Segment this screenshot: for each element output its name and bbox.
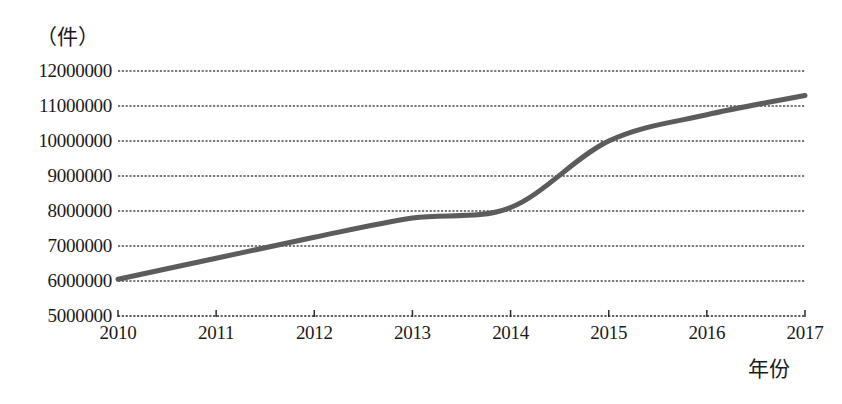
data-series-line — [118, 96, 805, 280]
x-axis-tick-label: 2016 — [688, 322, 725, 344]
x-axis-tick-label: 2012 — [296, 322, 333, 344]
x-axis-tick-label: 2017 — [787, 322, 824, 344]
x-axis-tick-label: 2010 — [100, 322, 137, 344]
x-axis-tick-label: 2013 — [394, 322, 431, 344]
line-chart: （件） 120000001100000010000000900000080000… — [0, 0, 842, 404]
gridlines — [118, 71, 805, 281]
x-axis-tick-label: 2014 — [492, 322, 529, 344]
x-axis-tick-label: 2015 — [590, 322, 627, 344]
axis-frame — [118, 310, 805, 317]
x-axis-title: 年份 — [748, 352, 790, 382]
x-axis-tick-label: 2011 — [198, 322, 234, 344]
